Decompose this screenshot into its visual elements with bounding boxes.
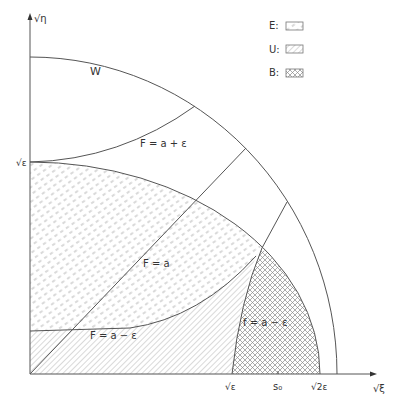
legend: E: U: B:	[269, 20, 303, 78]
legend-u-label: U:	[269, 44, 280, 55]
legend-b-swatch	[286, 69, 303, 77]
x-axis-arrow-icon	[370, 372, 377, 377]
x-axis-label: √ξ	[373, 383, 385, 394]
label-f-a: F = a	[143, 258, 170, 269]
legend-e-swatch	[286, 22, 303, 30]
curve-f-a-plus-eps	[30, 106, 195, 162]
label-f-a-plus-eps: F = a + ε	[140, 138, 187, 149]
y-axis-arrow-icon	[28, 13, 33, 20]
legend-b-label: B:	[269, 67, 279, 78]
label-w: W	[90, 65, 101, 78]
legend-u-swatch	[286, 45, 303, 53]
legend-e-label: E:	[269, 20, 279, 31]
phase-diagram: √η √ξ √ε √ε s₀ √2ε W F = a + ε F = a F =…	[0, 0, 397, 406]
x-tick-sqrt-eps: √ε	[225, 382, 236, 392]
label-f-small-a-minus-eps: f = a − ε	[243, 317, 288, 328]
x-tick-sqrt-2eps: √2ε	[311, 382, 327, 392]
y-tick-sqrt-eps: √ε	[16, 158, 27, 168]
x-tick-s0: s₀	[273, 381, 282, 392]
label-f-a-minus-eps: F = a − ε	[90, 330, 137, 341]
y-axis-label: √η	[34, 13, 47, 24]
